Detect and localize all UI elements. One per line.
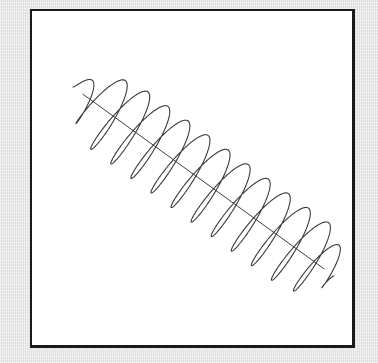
helix-curve bbox=[73, 79, 340, 291]
helix-drawing bbox=[0, 0, 378, 363]
helix-axis-line bbox=[83, 94, 325, 269]
